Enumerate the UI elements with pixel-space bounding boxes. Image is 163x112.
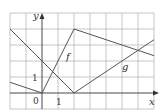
y-tick-label-1: 1 xyxy=(32,73,38,83)
x-axis-arrow-icon xyxy=(153,91,159,96)
x-tick-label-1: 1 xyxy=(56,97,62,107)
origin-label: 0 xyxy=(33,96,39,106)
curve-label-f: f xyxy=(65,51,72,62)
graph-figure: y x 0 1 1 f g xyxy=(0,0,163,112)
grid xyxy=(10,13,154,109)
y-axis-arrow-icon xyxy=(40,13,45,19)
x-axis-label: x xyxy=(149,96,155,107)
y-axis-label: y xyxy=(32,10,39,21)
curve-label-g: g xyxy=(122,61,128,72)
